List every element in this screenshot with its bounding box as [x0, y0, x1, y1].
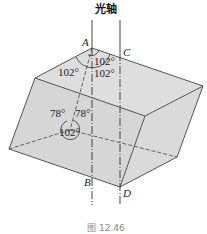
- angle-label-top-right: 102°: [94, 67, 115, 79]
- angle-label-hidden-left: 78°: [50, 107, 65, 119]
- vertex-label-C: C: [123, 46, 131, 58]
- angle-label-top-left: 102°: [58, 66, 79, 78]
- vertex-label-B: B: [84, 176, 91, 188]
- optic-axis-title: 光轴: [94, 2, 117, 16]
- angle-label-top-inner: 102°: [94, 55, 115, 67]
- figure-caption: 图 12.46: [87, 223, 125, 233]
- vertex-label-A: A: [81, 36, 89, 48]
- angle-label-hidden-right: 78°: [75, 107, 90, 119]
- angle-label-hidden-bottom: 102°: [59, 126, 80, 138]
- calcite-crystal-diagram: 光轴 A C B D 102° 102° 102° 78° 78° 102° 图…: [0, 0, 207, 234]
- vertex-label-D: D: [122, 187, 131, 199]
